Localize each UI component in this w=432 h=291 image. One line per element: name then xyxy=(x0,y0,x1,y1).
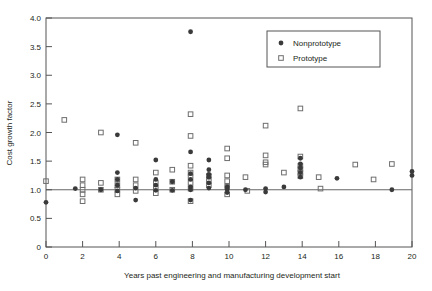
data-point xyxy=(188,171,193,176)
series-prototype-points xyxy=(44,106,394,203)
x-axis-ticks xyxy=(46,241,412,247)
data-point xyxy=(298,106,303,111)
x-tick-label: 8 xyxy=(190,252,195,261)
data-point xyxy=(225,179,230,184)
data-point xyxy=(115,177,120,182)
data-point xyxy=(298,156,303,161)
data-point xyxy=(263,190,268,195)
data-point xyxy=(206,158,211,163)
x-axis-title: Years past engineering and manufacturing… xyxy=(124,271,341,280)
data-point xyxy=(188,163,193,168)
data-point xyxy=(335,176,340,181)
x-tick-label: 4 xyxy=(117,252,122,261)
data-point xyxy=(263,123,268,128)
y-axis-ticks xyxy=(46,18,52,247)
data-point xyxy=(298,170,303,175)
x-tick-label: 16 xyxy=(334,252,343,261)
data-point xyxy=(99,181,104,186)
data-point xyxy=(188,198,193,203)
data-point xyxy=(153,158,158,163)
data-point xyxy=(170,188,175,193)
data-point xyxy=(73,186,78,191)
x-tick-labels: 02468101214161820 xyxy=(44,252,417,261)
data-point xyxy=(133,141,138,146)
data-point xyxy=(80,192,85,197)
data-point xyxy=(188,150,193,155)
data-point xyxy=(371,177,376,182)
data-point xyxy=(282,184,287,189)
data-point xyxy=(225,156,230,161)
y-tick-label: 3.5 xyxy=(30,43,42,52)
data-point xyxy=(133,177,138,182)
data-point xyxy=(44,200,49,205)
data-point xyxy=(206,167,211,172)
x-tick-label: 2 xyxy=(80,252,85,261)
data-point xyxy=(153,183,158,188)
data-point xyxy=(410,173,415,178)
x-tick-label: 0 xyxy=(44,252,49,261)
data-point xyxy=(154,170,159,175)
data-point xyxy=(133,198,138,203)
data-point xyxy=(170,167,175,172)
y-tick-label: 1.0 xyxy=(30,186,42,195)
data-point xyxy=(188,187,193,192)
y-tick-label: 2.0 xyxy=(30,129,42,138)
data-point xyxy=(115,188,120,193)
data-point xyxy=(115,170,120,175)
data-point xyxy=(153,188,158,193)
data-point xyxy=(243,175,248,180)
chart-figure: 00.51.01.52.02.53.03.54.0 02468101214161… xyxy=(0,0,432,291)
data-point xyxy=(115,132,120,137)
y-tick-label: 1.5 xyxy=(30,157,42,166)
y-tick-label: 3.0 xyxy=(30,71,42,80)
data-point xyxy=(353,162,358,167)
data-point xyxy=(298,175,303,180)
data-point xyxy=(80,199,85,204)
data-point xyxy=(206,175,211,180)
data-point xyxy=(225,146,230,151)
x-tick-label: 18 xyxy=(371,252,380,261)
chart-legend: NonprototypePrototype xyxy=(267,31,380,67)
y-tick-label: 2.5 xyxy=(30,100,42,109)
data-point xyxy=(225,190,230,195)
data-point xyxy=(206,180,211,185)
data-point xyxy=(80,183,85,188)
data-point xyxy=(298,166,303,171)
data-point xyxy=(390,162,395,167)
legend-label-2: Prototype xyxy=(293,54,328,63)
legend-marker-1 xyxy=(279,41,284,46)
data-point xyxy=(188,29,193,34)
data-point xyxy=(188,177,193,182)
x-tick-label: 6 xyxy=(154,252,159,261)
y-tick-label: 0.5 xyxy=(30,214,42,223)
data-point xyxy=(188,112,193,117)
y-tick-label: 0 xyxy=(37,243,42,252)
data-point xyxy=(243,187,248,192)
scatter-plot: 00.51.01.52.02.53.03.54.0 02468101214161… xyxy=(0,0,432,291)
data-point xyxy=(263,153,268,158)
x-tick-label: 10 xyxy=(225,252,234,261)
data-point xyxy=(170,179,175,184)
y-tick-labels: 00.51.01.52.02.53.03.54.0 xyxy=(30,14,42,252)
x-tick-label: 14 xyxy=(298,252,307,261)
data-point xyxy=(99,187,104,192)
data-point xyxy=(316,175,321,180)
data-point xyxy=(153,177,158,182)
data-point xyxy=(80,177,85,182)
data-point xyxy=(133,186,138,191)
data-point xyxy=(62,118,67,123)
data-point xyxy=(389,187,394,192)
x-tick-label: 12 xyxy=(261,252,270,261)
legend-label-1: Nonprototype xyxy=(293,39,342,48)
data-point xyxy=(99,130,104,135)
y-axis-title: Cost growth factor xyxy=(5,100,14,165)
data-point xyxy=(282,170,287,175)
data-point xyxy=(115,183,120,188)
data-point xyxy=(188,134,193,139)
y-tick-label: 4.0 xyxy=(30,14,42,23)
data-point xyxy=(225,173,230,178)
data-point xyxy=(206,186,211,191)
x-tick-label: 20 xyxy=(408,252,417,261)
